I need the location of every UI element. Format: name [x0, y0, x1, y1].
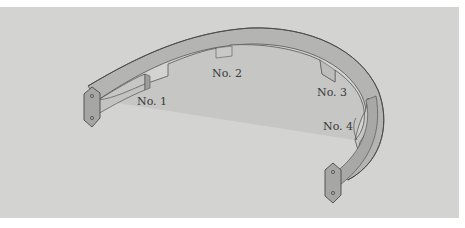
left-end-cap: [84, 87, 100, 127]
notch-no2: [216, 46, 232, 58]
label-no4: No. 4: [323, 120, 353, 133]
label-no1: No. 1: [137, 95, 167, 108]
bracket-diagram: No. 1 No. 2 No. 3 No. 4: [0, 0, 465, 228]
label-no2: No. 2: [212, 67, 242, 80]
right-end-cap: [325, 163, 341, 203]
label-no3: No. 3: [317, 86, 347, 99]
notch-no1: [145, 74, 150, 90]
